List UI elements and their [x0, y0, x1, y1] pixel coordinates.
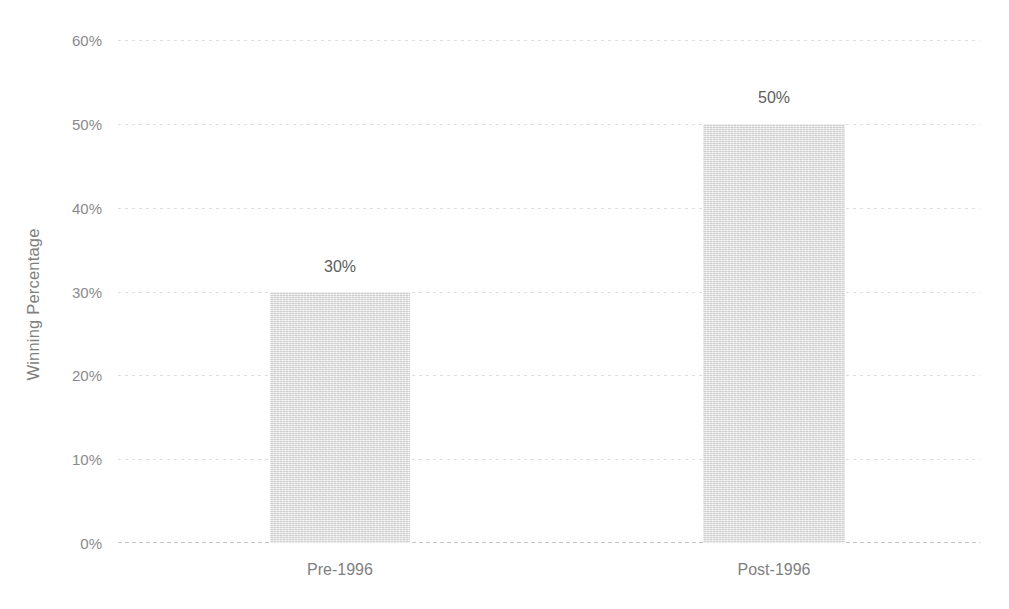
gridline-10	[118, 459, 980, 460]
y-axis-tick-labels: 60% 50% 40% 30% 20% 10% 0%	[40, 40, 102, 543]
y-tick-label-50: 50%	[44, 115, 102, 132]
gridline-40	[118, 208, 980, 209]
plot-area	[118, 40, 980, 543]
gridline-20	[118, 375, 980, 376]
y-tick-label-30: 30%	[44, 283, 102, 300]
x-tick-label-pre-1996: Pre-1996	[280, 561, 400, 579]
gridline-30	[118, 292, 980, 293]
bar-chart: Winning Percentage 60% 50% 40% 30% 20% 1…	[0, 0, 1009, 609]
y-tick-label-40: 40%	[44, 199, 102, 216]
gridline-60	[118, 40, 980, 41]
bar-pre-1996[interactable]	[270, 292, 410, 544]
gridline-50	[118, 124, 980, 125]
x-tick-label-post-1996: Post-1996	[714, 561, 834, 579]
y-tick-label-60: 60%	[44, 32, 102, 49]
bar-post-1996[interactable]	[703, 124, 845, 543]
y-tick-label-20: 20%	[44, 367, 102, 384]
gridline-0-baseline	[118, 542, 980, 543]
y-tick-label-10: 10%	[44, 451, 102, 468]
y-tick-label-0: 0%	[44, 535, 102, 552]
